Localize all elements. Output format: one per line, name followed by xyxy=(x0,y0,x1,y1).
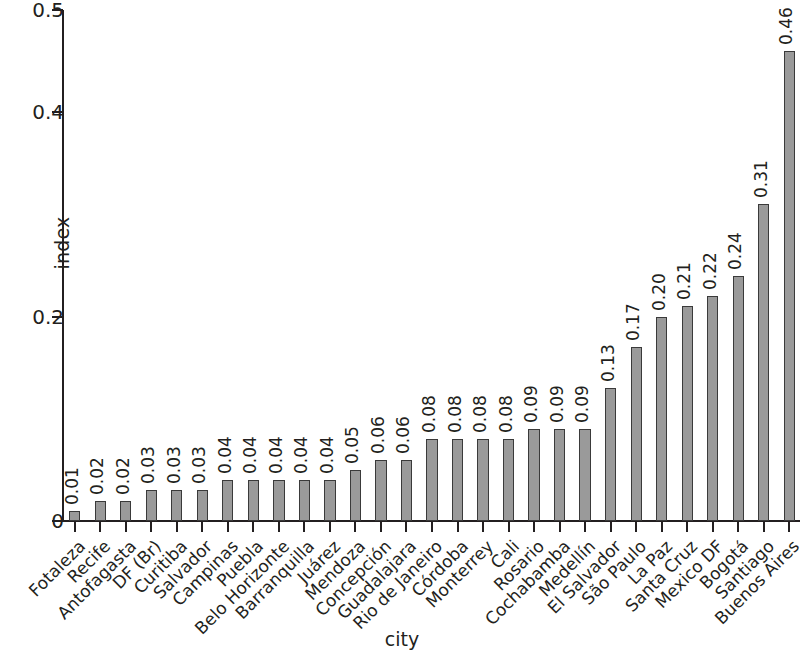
x-tick-mark xyxy=(329,522,331,532)
bar: 0.03 xyxy=(171,10,182,521)
bar-rect xyxy=(707,296,718,521)
y-tick-label: 0.2 xyxy=(18,305,64,329)
x-tick-mark xyxy=(354,522,356,532)
bar-value-label: 0.04 xyxy=(291,436,311,474)
bar-value-label: 0.31 xyxy=(751,160,771,198)
bar-value-label: 0.22 xyxy=(700,252,720,290)
bar-rect xyxy=(324,480,335,521)
x-tick-mark xyxy=(380,522,382,532)
bar-rect xyxy=(146,490,157,521)
bar: 0.46 xyxy=(784,10,795,521)
x-tick-mark xyxy=(610,522,612,532)
x-tick-mark xyxy=(227,522,229,532)
bar-rect xyxy=(477,439,488,521)
bar-rect xyxy=(452,439,463,521)
x-tick-mark xyxy=(763,522,765,532)
bar-value-label: 0.17 xyxy=(623,303,643,341)
x-tick-mark xyxy=(788,522,790,532)
bar: 0.04 xyxy=(248,10,259,521)
bar-value-label: 0.08 xyxy=(419,395,439,433)
bar: 0.13 xyxy=(605,10,616,521)
x-tick-mark xyxy=(74,522,76,532)
bar-rect xyxy=(682,306,693,521)
bar-rect xyxy=(171,490,182,521)
x-axis-title: city xyxy=(0,628,804,650)
bar: 0.20 xyxy=(656,10,667,521)
y-tick-label: 0.4 xyxy=(18,100,64,124)
bar-value-label: 0.24 xyxy=(725,232,745,270)
x-tick-mark xyxy=(125,522,127,532)
x-tick-mark xyxy=(99,522,101,532)
bar-value-label: 0.03 xyxy=(164,446,184,484)
bar-value-label: 0.08 xyxy=(496,395,516,433)
bar-rect xyxy=(784,51,795,521)
bar-value-label: 0.09 xyxy=(547,385,567,423)
bar-rect xyxy=(656,317,667,521)
bar: 0.01 xyxy=(69,10,80,521)
x-tick-mark xyxy=(533,522,535,532)
bar-value-label: 0.04 xyxy=(240,436,260,474)
bar-rect xyxy=(528,429,539,521)
bar: 0.06 xyxy=(401,10,412,521)
x-tick-mark xyxy=(405,522,407,532)
bar-rect xyxy=(69,511,80,521)
plot-area: 0.010.020.020.030.030.030.040.040.040.04… xyxy=(62,10,802,521)
x-tick-mark xyxy=(635,522,637,532)
bar: 0.02 xyxy=(120,10,131,521)
y-tick-label: 0.5 xyxy=(18,0,64,22)
bar: 0.05 xyxy=(350,10,361,521)
bar: 0.09 xyxy=(528,10,539,521)
bar-rect xyxy=(197,490,208,521)
bar-rect xyxy=(401,460,412,521)
bar-value-label: 0.05 xyxy=(342,426,362,464)
bar: 0.31 xyxy=(758,10,769,521)
bar-value-label: 0.02 xyxy=(113,457,133,495)
bar-rect xyxy=(503,439,514,521)
bar-value-label: 0.09 xyxy=(521,385,541,423)
x-tick-mark xyxy=(278,522,280,532)
x-tick-mark xyxy=(482,522,484,532)
bar-rect xyxy=(273,480,284,521)
y-tick-label: 0 xyxy=(18,509,64,533)
bar-rect xyxy=(375,460,386,521)
bar: 0.09 xyxy=(554,10,565,521)
x-tick-mark xyxy=(584,522,586,532)
bar: 0.08 xyxy=(426,10,437,521)
bar-value-label: 0.02 xyxy=(87,457,107,495)
bar: 0.04 xyxy=(273,10,284,521)
bar-value-label: 0.06 xyxy=(368,416,388,454)
bar-rect xyxy=(95,501,106,521)
x-tick-mark xyxy=(431,522,433,532)
x-tick-mark xyxy=(508,522,510,532)
bar-rect xyxy=(758,204,769,521)
bar: 0.21 xyxy=(682,10,693,521)
bar-value-label: 0.06 xyxy=(393,416,413,454)
bar-value-label: 0.13 xyxy=(598,344,618,382)
bar: 0.08 xyxy=(503,10,514,521)
x-tick-mark xyxy=(712,522,714,532)
bar-value-label: 0.04 xyxy=(266,436,286,474)
x-tick-mark xyxy=(201,522,203,532)
bar-value-label: 0.04 xyxy=(317,436,337,474)
bar: 0.04 xyxy=(299,10,310,521)
x-tick-mark xyxy=(150,522,152,532)
bar: 0.08 xyxy=(477,10,488,521)
bar-value-label: 0.04 xyxy=(215,436,235,474)
bar-rect xyxy=(222,480,233,521)
bar-value-label: 0.09 xyxy=(572,385,592,423)
x-tick-mark xyxy=(661,522,663,532)
bar-value-label: 0.08 xyxy=(470,395,490,433)
bar-value-label: 0.46 xyxy=(776,7,796,45)
bar-value-label: 0.03 xyxy=(138,446,158,484)
x-tick-mark xyxy=(252,522,254,532)
bar-rect xyxy=(605,388,616,521)
x-tick-mark xyxy=(737,522,739,532)
bar-rect xyxy=(120,501,131,521)
bar: 0.06 xyxy=(375,10,386,521)
bar-chart: index 00.20.40.5 0.010.020.020.030.030.0… xyxy=(0,0,804,660)
bar-rect xyxy=(426,439,437,521)
x-tick-mark xyxy=(457,522,459,532)
bar-value-label: 0.01 xyxy=(62,467,82,505)
bar-value-label: 0.21 xyxy=(674,263,694,301)
bar: 0.03 xyxy=(146,10,157,521)
